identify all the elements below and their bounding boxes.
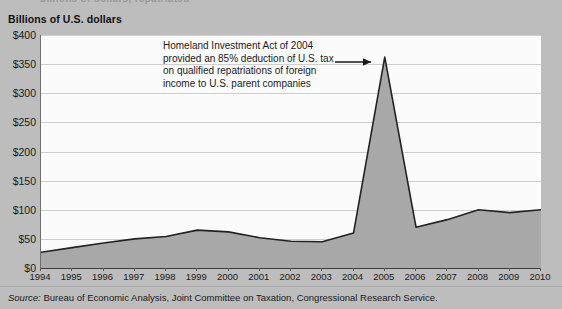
- footer-divider: [0, 286, 562, 287]
- x-axis-tick-label: 2000: [217, 271, 238, 282]
- source-text: Bureau of Economic Analysis, Joint Commi…: [41, 292, 438, 303]
- x-axis-tick-label: 2004: [342, 271, 363, 282]
- clipped-top-text: billions of dollars, repatriated: [0, 0, 562, 7]
- x-axis-tick-label: 2007: [436, 271, 457, 282]
- x-axis-tick-label: 2001: [248, 271, 269, 282]
- y-axis-tick-label: $350: [13, 58, 36, 70]
- x-axis-tick-label: 1995: [61, 271, 82, 282]
- y-axis-title: Billions of U.S. dollars: [8, 13, 122, 25]
- x-axis-tick-label: 2006: [404, 271, 425, 282]
- x-axis-tick-label: 2008: [467, 271, 488, 282]
- y-axis-tick-label: $250: [13, 116, 36, 128]
- x-axis-tick-label: 2009: [498, 271, 519, 282]
- x-axis-labels: 1994199519961997199819992000200120022003…: [40, 271, 540, 287]
- annotation-line: provided an 85% deduction of U.S. tax: [163, 53, 363, 66]
- chart-annotation: Homeland Investment Act of 2004provided …: [163, 40, 363, 90]
- y-axis-tick-label: $150: [13, 175, 36, 187]
- x-axis-tick-label: 2005: [373, 271, 394, 282]
- annotation-line: income to U.S. parent companies: [163, 78, 363, 91]
- annotation-line: on qualified repatriations of foreign: [163, 65, 363, 78]
- y-axis-labels: $0$50$100$150$200$250$300$350$400: [0, 35, 36, 268]
- x-axis-tick-label: 1994: [29, 271, 50, 282]
- y-axis-tick-label: $300: [13, 87, 36, 99]
- x-axis-tick-label: 1997: [123, 271, 144, 282]
- x-axis-tick-label: 1999: [186, 271, 207, 282]
- x-axis-tick-label: 1996: [92, 271, 113, 282]
- y-axis-tick-label: $100: [13, 204, 36, 216]
- y-axis-tick-label: $50: [18, 233, 36, 245]
- x-axis-tick-label: 2010: [529, 271, 550, 282]
- source-note: Source: Bureau of Economic Analysis, Joi…: [8, 292, 438, 303]
- annotation-line: Homeland Investment Act of 2004: [163, 40, 363, 53]
- x-axis-tick-label: 2002: [279, 271, 300, 282]
- x-axis-tick-label: 2003: [311, 271, 332, 282]
- source-prefix: Source:: [8, 292, 41, 303]
- y-axis-tick-label: $400: [13, 29, 36, 41]
- y-axis-tick-label: $200: [13, 146, 36, 158]
- x-axis-tick-label: 1998: [154, 271, 175, 282]
